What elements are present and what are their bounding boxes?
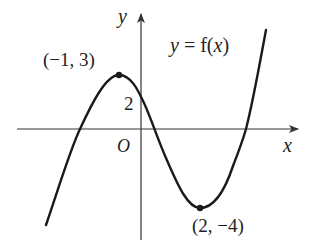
y-axis-label: y [116,5,127,28]
function-label: y = f(x) [168,34,229,57]
local-maximum-label: (−1, 3) [43,49,95,71]
function-label-eq: = f( [179,34,214,57]
y-intercept-label: 2 [124,93,134,114]
function-label-y: y [168,34,179,57]
origin-label: O [117,136,130,156]
x-axis-label: x [282,134,292,156]
cubic-graph-diagram: y x O 2 (−1, 3) (2, −4) y = f(x) [0,0,312,240]
function-label-close: ) [222,34,229,57]
local-minimum-label: (2, −4) [192,215,244,237]
local-maximum-point [116,72,122,78]
graph-svg: y x O 2 (−1, 3) (2, −4) y = f(x) [0,0,312,240]
local-minimum-point [197,205,203,211]
function-label-x: x [213,34,223,56]
